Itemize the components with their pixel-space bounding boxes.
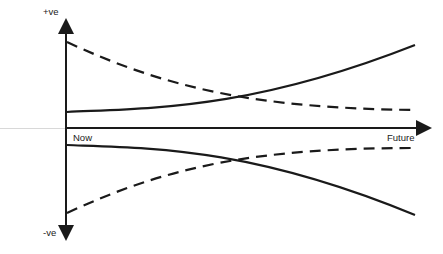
label-negative: -ve <box>43 227 56 238</box>
curve-upper-dashed <box>67 42 415 110</box>
curve-lower-dashed <box>67 148 415 213</box>
label-future: Future <box>387 132 414 143</box>
curve-lower-solid <box>67 145 415 215</box>
label-now: Now <box>73 132 92 143</box>
diagram-svg: +ve -ve Now Future <box>0 0 443 254</box>
label-positive: +ve <box>43 6 59 17</box>
diagram-canvas: +ve -ve Now Future <box>0 0 443 254</box>
curve-upper-solid <box>67 45 415 112</box>
